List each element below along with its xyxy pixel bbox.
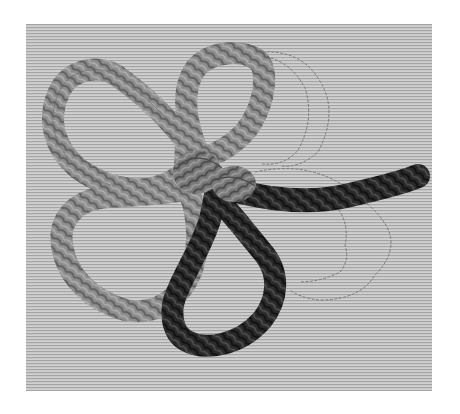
embroidery-svg	[0, 0, 460, 414]
embroidery-photo	[0, 0, 460, 414]
